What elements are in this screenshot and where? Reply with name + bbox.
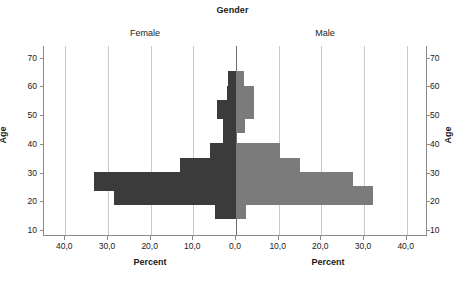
x-tick-label-4: 0,0 — [215, 241, 255, 251]
x-tick-mark-3 — [192, 236, 193, 240]
gridline — [193, 46, 194, 235]
y-tick-label-left-50: 50 — [11, 110, 37, 120]
x-tick-mark-0 — [64, 236, 65, 240]
y-tick-mark-right — [427, 144, 430, 145]
gridline — [407, 46, 408, 235]
gridline — [151, 46, 152, 235]
y-tick-mark-left — [40, 201, 43, 202]
y-tick-label-right-10: 10 — [430, 225, 456, 235]
plot-area — [43, 46, 427, 236]
y-tick-mark-left — [40, 173, 43, 174]
y-tick-mark-left — [40, 58, 43, 59]
bar-male-age-62 — [236, 71, 244, 90]
y-tick-label-left-20: 20 — [11, 196, 37, 206]
y-tick-mark-right — [427, 173, 430, 174]
x-tick-mark-6 — [320, 236, 321, 240]
y-tick-mark-right — [427, 115, 430, 116]
y-tick-mark-left — [40, 86, 43, 87]
y-tick-mark-left — [40, 115, 43, 116]
x-tick-mark-2 — [150, 236, 151, 240]
gridline — [364, 46, 365, 235]
gridline — [279, 46, 280, 235]
y-tick-label-left-60: 60 — [11, 81, 37, 91]
y-tick-mark-left — [40, 230, 43, 231]
gridline — [65, 46, 66, 235]
chart-title: Gender — [0, 5, 465, 15]
x-tick-mark-8 — [406, 236, 407, 240]
gridline — [321, 46, 322, 235]
y-tick-label-right-70: 70 — [430, 53, 456, 63]
y-tick-label-left-30: 30 — [11, 168, 37, 178]
y-tick-label-left-40: 40 — [11, 139, 37, 149]
x-tick-label-7: 30,0 — [343, 241, 383, 251]
x-tick-label-0: 40,0 — [44, 241, 84, 251]
y-axis-title-left: Age — [0, 126, 8, 143]
bar-male-age-37 — [236, 143, 280, 162]
x-tick-mark-5 — [278, 236, 279, 240]
y-tick-label-right-50: 50 — [430, 110, 456, 120]
x-tick-label-5: 10,0 — [258, 241, 298, 251]
x-tick-label-3: 10,0 — [172, 241, 212, 251]
x-tick-mark-4 — [235, 236, 236, 240]
x-axis-title-left: Percent — [105, 257, 195, 267]
x-tick-label-6: 20,0 — [300, 241, 340, 251]
y-tick-mark-left — [40, 144, 43, 145]
panel-label-female: Female — [100, 28, 190, 38]
y-tick-label-right-20: 20 — [430, 196, 456, 206]
y-tick-mark-right — [427, 201, 430, 202]
x-tick-label-2: 20,0 — [130, 241, 170, 251]
y-tick-label-right-30: 30 — [430, 168, 456, 178]
population-pyramid-chart: Gender Female Male 101020203030404050506… — [0, 0, 465, 286]
x-tick-mark-7 — [363, 236, 364, 240]
panel-label-male: Male — [280, 28, 370, 38]
x-tick-label-8: 40,0 — [386, 241, 426, 251]
y-tick-label-right-60: 60 — [430, 81, 456, 91]
y-tick-mark-right — [427, 230, 430, 231]
y-tick-mark-right — [427, 86, 430, 87]
x-tick-mark-1 — [107, 236, 108, 240]
gridline — [108, 46, 109, 235]
y-tick-label-left-70: 70 — [11, 53, 37, 63]
x-axis-title-right: Percent — [283, 257, 373, 267]
y-axis-title-right: Age — [443, 126, 453, 143]
bar-female-age-62 — [228, 71, 236, 90]
y-tick-label-left-10: 10 — [11, 225, 37, 235]
y-tick-mark-right — [427, 58, 430, 59]
x-tick-label-1: 30,0 — [87, 241, 127, 251]
